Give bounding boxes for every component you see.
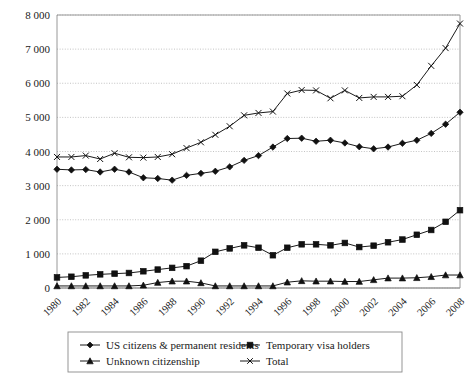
data-point-square [371, 243, 377, 249]
data-point-square [414, 232, 420, 238]
data-point-square [284, 245, 290, 251]
data-point-square [112, 271, 118, 277]
data-point-square [213, 249, 219, 255]
data-point-square [457, 207, 463, 213]
data-point-square [356, 244, 362, 250]
data-point-square [270, 252, 276, 258]
data-point-square [385, 239, 391, 245]
data-point-square [126, 270, 132, 276]
line-chart: 01 0002 0003 0004 0005 0006 0007 0008 00… [0, 0, 471, 378]
legend-label: Temporary visa holders [266, 339, 370, 351]
data-point-square [169, 265, 175, 271]
chart-background [0, 0, 471, 378]
data-point-square [155, 267, 161, 273]
y-tick-label: 1 000 [25, 248, 50, 260]
data-point-square [299, 242, 305, 248]
data-point-square [342, 240, 348, 246]
data-point-square [83, 273, 89, 279]
data-point-square [247, 342, 253, 348]
y-tick-label: 3 000 [25, 180, 50, 192]
y-tick-label: 7 000 [25, 43, 50, 55]
y-tick-label: 6 000 [25, 77, 50, 89]
data-point-square [443, 219, 449, 225]
data-point-square [184, 263, 190, 269]
y-tick-label: 2 000 [25, 214, 50, 226]
data-point-square [198, 258, 204, 264]
data-point-square [54, 275, 60, 281]
data-point-square [97, 272, 103, 278]
chart-legend: US citizens & permanent residentsTempora… [68, 332, 402, 372]
data-point-square [256, 245, 262, 251]
y-tick-label: 5 000 [25, 111, 50, 123]
y-tick-label: 0 [45, 282, 51, 294]
data-point-square [328, 243, 334, 249]
data-point-square [227, 246, 233, 252]
legend-entry-0[interactable]: US citizens & permanent residents [80, 339, 259, 351]
data-point-square [400, 237, 406, 243]
legend-label: US citizens & permanent residents [106, 339, 259, 351]
y-tick-label: 8 000 [25, 9, 50, 21]
chart-container: 01 0002 0003 0004 0005 0006 0007 0008 00… [0, 0, 471, 378]
legend-label: Total [266, 355, 288, 367]
legend-label: Unknown citizenship [106, 355, 200, 367]
y-axis-tick-labels: 01 0002 0003 0004 0005 0006 0007 0008 00… [25, 9, 50, 294]
data-point-square [69, 274, 75, 280]
data-point-square [428, 227, 434, 233]
data-point-square [241, 243, 247, 249]
data-point-square [313, 242, 319, 248]
y-tick-label: 4 000 [25, 146, 50, 158]
data-point-square [141, 268, 147, 274]
